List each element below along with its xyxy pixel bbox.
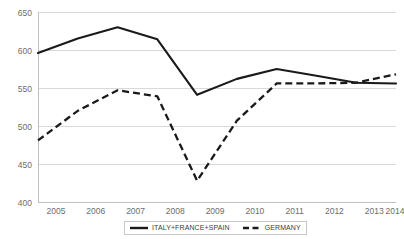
x-tick-label: 2011 <box>286 206 305 216</box>
x-tick-label: 2007 <box>126 206 145 216</box>
x-tick-label: 2014 <box>386 206 404 216</box>
x-tick-label: 2009 <box>206 206 225 216</box>
x-tick-label: 2010 <box>245 206 264 216</box>
line-chart: 650 600 550 500 450 400 2005 2006 2007 2… <box>0 0 404 239</box>
legend-swatch-dashed-icon <box>243 224 261 232</box>
chart-legend: ITALY+FRANCE+SPAIN GERMANY <box>124 221 307 235</box>
legend-swatch-solid-icon <box>130 224 148 232</box>
plot-area-background <box>38 12 396 202</box>
x-axis-tick-labels: 2005 2006 2007 2008 2009 2010 2011 2012 … <box>47 206 404 216</box>
y-tick-label: 500 <box>18 122 32 132</box>
y-tick-label: 600 <box>18 46 32 56</box>
legend-label: GERMANY <box>265 223 301 232</box>
legend-entry-italy-france-spain: ITALY+FRANCE+SPAIN <box>130 223 230 232</box>
legend-entry-germany: GERMANY <box>243 223 301 232</box>
y-tick-label: 400 <box>18 198 32 208</box>
chart-canvas: 650 600 550 500 450 400 2005 2006 2007 2… <box>0 0 404 239</box>
y-axis-tick-labels: 650 600 550 500 450 400 <box>18 8 32 208</box>
y-tick-label: 550 <box>18 84 32 94</box>
legend-label: ITALY+FRANCE+SPAIN <box>152 223 230 232</box>
x-tick-label: 2006 <box>86 206 105 216</box>
y-tick-label: 650 <box>18 8 32 18</box>
x-tick-label: 2012 <box>325 206 344 216</box>
x-tick-label: 2008 <box>166 206 185 216</box>
x-tick-label: 2005 <box>47 206 66 216</box>
y-tick-label: 450 <box>18 160 32 170</box>
x-tick-label: 2013 <box>365 206 384 216</box>
